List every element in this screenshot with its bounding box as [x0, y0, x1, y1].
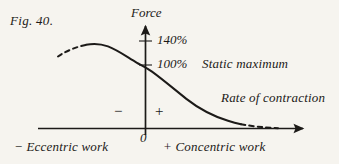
x-axis-label-concentric-work: + Concentric work — [163, 140, 265, 153]
annotation-static-maximum: Static maximum — [202, 57, 288, 70]
figure-number-label: Fig. 40. — [10, 14, 53, 27]
y-axis-label: Force — [131, 6, 162, 19]
figure-container: Fig. 40. Force 140% 100% Static maximum … — [0, 0, 339, 164]
x-axis-label-eccentric-work: − Eccentric work — [14, 140, 108, 153]
y-tick-label-100: 100% — [157, 57, 187, 70]
curve-left-dashed — [58, 45, 86, 57]
y-tick-label-140: 140% — [157, 33, 187, 46]
annotation-rate-of-contraction: Rate of contraction — [221, 91, 325, 104]
curve-right-dashed — [241, 124, 278, 128]
quadrant-sign-positive: + — [155, 104, 163, 119]
origin-label: 0 — [140, 131, 147, 144]
quadrant-sign-negative: − — [114, 104, 122, 119]
